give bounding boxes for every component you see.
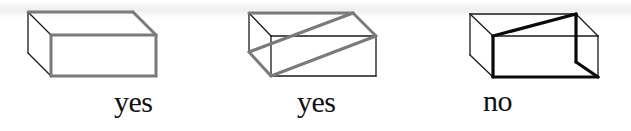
- box-edge: [470, 55, 493, 77]
- box-edge: [28, 12, 51, 35]
- box-1-label: yes: [114, 87, 153, 117]
- highlighted-path-edge: [249, 13, 353, 52]
- box-2-yes: [249, 13, 376, 76]
- highlighted-path-edge: [133, 12, 156, 35]
- box-3-no: [470, 14, 598, 77]
- box-2-label: yes: [297, 87, 336, 117]
- highlighted-path-edge: [249, 52, 271, 76]
- box-edge: [576, 14, 598, 36]
- box-edge: [470, 14, 493, 36]
- highlighted-path-edge: [493, 14, 576, 36]
- box-edge: [28, 53, 51, 76]
- highlighted-path-edge: [271, 36, 376, 76]
- box-1-yes: [28, 12, 156, 76]
- highlighted-path-edge: [576, 62, 598, 77]
- box-edge: [249, 13, 271, 36]
- box-3-label: no: [483, 86, 512, 116]
- highlighted-path-edge: [353, 13, 376, 36]
